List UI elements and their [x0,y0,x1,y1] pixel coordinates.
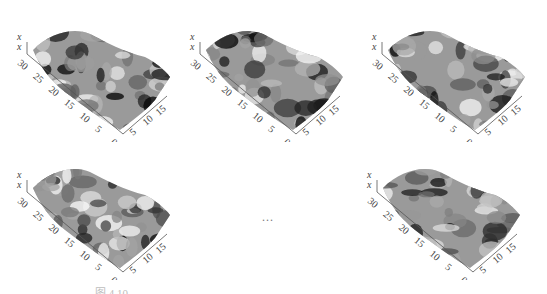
long-axis-tick: 10 [433,110,448,125]
surface-plot-1: xx30252015105051015 [5,12,185,142]
long-axis-tick: 10 [251,110,266,125]
long-axis-tick: 5 [266,123,277,135]
long-axis-tick: 0 [109,274,120,280]
z-axis-label: x [366,179,372,190]
long-axis-tick: 25 [204,70,219,85]
surface-plot-4: xx30252015105051015 [5,150,185,280]
short-axis-tick: 10 [140,251,155,266]
short-axis-tick: 10 [490,251,505,266]
long-axis-tick: 25 [31,208,46,223]
short-axis-tick: 5 [482,126,493,138]
long-axis-tick: 30 [16,57,31,72]
long-axis-tick: 25 [381,208,396,223]
surface-plot-5: xx30252015105051015 [355,150,535,280]
long-axis-tick: 5 [93,123,104,135]
long-axis-tick: 0 [459,274,470,280]
short-axis-tick: 5 [300,126,311,138]
long-axis-tick: 0 [464,136,475,142]
long-axis-tick: 30 [16,195,31,210]
short-axis-tick: 15 [153,103,168,118]
long-axis-tick: 30 [366,195,381,210]
long-axis-tick: 5 [443,261,454,273]
short-axis-tick: 10 [313,113,328,128]
short-axis-tick: 5 [127,264,138,276]
z-axis-label: x [189,41,195,52]
short-axis-tick: 5 [127,126,138,138]
long-axis-tick: 10 [78,248,93,263]
ellipsis-indicator: ... [262,210,274,225]
surface-plot-2: xx30252015105051015 [178,12,358,142]
z-axis-label: x [371,41,377,52]
short-axis-tick: 15 [326,103,341,118]
long-axis-tick: 10 [78,110,93,125]
long-axis-tick: 5 [93,261,104,273]
short-axis-tick: 15 [503,241,518,256]
short-axis-tick: 5 [477,264,488,276]
z-axis-label: x [16,179,22,190]
short-axis-tick: 10 [495,113,510,128]
short-axis-tick: 10 [140,113,155,128]
short-axis-tick: 15 [508,103,523,118]
surface-plot-3: xx30252015105051015 [360,12,540,142]
long-axis-tick: 30 [371,57,386,72]
long-axis-tick: 30 [189,57,204,72]
long-axis-tick: 10 [428,248,443,263]
long-axis-tick: 25 [31,70,46,85]
figure-caption: 图 4.10 … [95,284,455,294]
short-axis-tick: 15 [153,241,168,256]
long-axis-tick: 5 [448,123,459,135]
long-axis-tick: 0 [282,136,293,142]
long-axis-tick: 0 [109,136,120,142]
z-axis-label: x [16,41,22,52]
long-axis-tick: 25 [386,70,401,85]
